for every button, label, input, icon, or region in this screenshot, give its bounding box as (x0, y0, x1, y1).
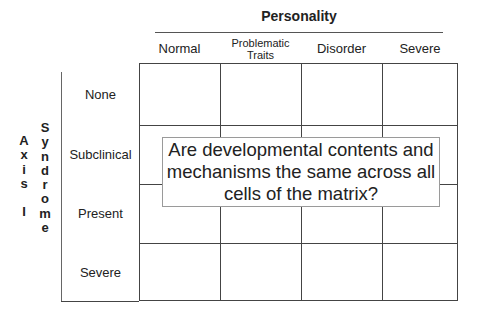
syndrome-letter: m (39, 207, 51, 221)
syndrome-letter: d (41, 164, 49, 178)
axis-i-letter: A (19, 134, 28, 148)
column-header-disorder: Disorder (301, 36, 382, 62)
column-header-line: Traits (247, 49, 274, 61)
syndrome-letter: o (41, 192, 49, 206)
row-header-none: None (62, 63, 139, 125)
syndrome-letter: y (41, 135, 48, 149)
personality-title-rule (155, 32, 443, 33)
column-header-line: Problematic (231, 37, 289, 49)
axis-i-letter: I (22, 205, 26, 219)
column-header-normal: Normal (139, 36, 220, 62)
axis-i-letter: s (20, 177, 27, 191)
axis-i-label: A x i s I (17, 134, 31, 220)
syndrome-label: S y n d r o m e (38, 121, 52, 235)
grid-row-divider (139, 243, 458, 244)
column-header-problematic-traits: Problematic Traits (220, 36, 301, 62)
syndrome-letter: r (42, 178, 47, 192)
question-overlay-box: Are developmental contents and mechanism… (162, 137, 440, 207)
syndrome-letter: n (41, 150, 49, 164)
row-header-severe: Severe (62, 243, 139, 301)
grid-row-divider (139, 125, 458, 126)
question-line: Are developmental contents and (167, 139, 435, 161)
axis-i-letter: i (22, 163, 26, 177)
question-line: mechanisms the same across all (167, 161, 435, 183)
row-header-subclinical: Subclinical (62, 125, 139, 184)
column-header-severe: Severe (382, 36, 458, 62)
row-header-present: Present (62, 184, 139, 243)
row-header-bottom-rule (61, 301, 139, 302)
axis-i-letter: x (20, 148, 27, 162)
syndrome-letter: e (41, 221, 48, 235)
syndrome-letter: S (41, 121, 50, 135)
question-line: cells of the matrix? (167, 183, 435, 205)
personality-title: Personality (155, 8, 443, 24)
